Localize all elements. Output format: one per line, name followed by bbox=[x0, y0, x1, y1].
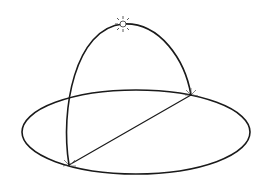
horizon-ellipse bbox=[22, 90, 250, 174]
sun-icon bbox=[115, 16, 131, 32]
diagram-svg bbox=[0, 0, 267, 187]
sun-chord-line bbox=[69, 95, 191, 165]
sun-path-diagram: Sun path over horizon plane bbox=[0, 0, 267, 187]
